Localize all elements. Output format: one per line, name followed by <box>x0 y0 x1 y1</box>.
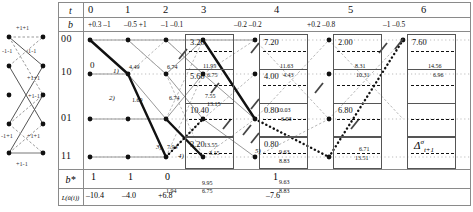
node-metric-22: 8.83 <box>279 188 290 194</box>
b-star-value-0: 1 <box>91 171 96 182</box>
state-edge-label-5: -1+1 <box>1 132 13 139</box>
path-label-4: 5) <box>255 147 261 155</box>
state-label-11: 11 <box>61 150 71 161</box>
b-pair-4: +0.2 –0.8 <box>307 20 335 29</box>
rule-under-trellis <box>58 169 471 170</box>
state-edge-label-7: +1-1 <box>16 160 28 167</box>
b-pair-5: –1 –0.5 <box>383 20 405 29</box>
rule-bottom <box>58 205 471 206</box>
L-value-2: +6.8 <box>158 191 173 200</box>
node-metric-13: 9.95 <box>202 180 213 186</box>
b-pair-2: –1 –0.1 <box>161 20 183 29</box>
path-label-1: 2) <box>109 94 115 102</box>
path-label-2: 3) <box>156 143 162 151</box>
L-value-1: –4.0 <box>122 191 136 200</box>
state-edge-label-4: +1-1 <box>28 92 40 99</box>
t-value-1: 1 <box>125 4 130 15</box>
path-label-3: 4) <box>178 152 184 160</box>
state-edge-label-1: -1-1 <box>2 47 12 54</box>
path-label-layer: 1)2)3)4)5) <box>83 31 471 169</box>
b-star-value-2: 0 <box>165 171 170 182</box>
t-value-4: 4 <box>274 4 279 15</box>
path-label-0: 1) <box>113 67 119 75</box>
trellis-figure-root: +1+1 -1-1 -1-1 +1+1 +1-1 -1+1 +1+1 +1-1 … <box>0 0 473 212</box>
t-value-6: 6 <box>421 4 426 15</box>
row-header-t: t <box>58 4 83 17</box>
state-edge-label-6: +1+1 <box>27 132 40 139</box>
t-value-5: 5 <box>348 4 353 15</box>
b-star-value-3: 1 <box>273 171 278 182</box>
state-transition-diagram: +1+1 -1-1 -1-1 +1+1 +1-1 -1+1 +1+1 +1-1 <box>0 22 58 172</box>
row-header-b-star: b* <box>58 170 83 188</box>
state-label-01: 01 <box>61 112 72 123</box>
L-value-3: –7.6 <box>266 191 280 200</box>
state-label-00: 00 <box>61 33 72 44</box>
row-header-b: b <box>58 18 83 31</box>
trellis-table: t b b* L(û(i)) 0 1 2 3 4 5 6 +0.3 –1 –0.… <box>58 2 471 206</box>
t-value-2: 2 <box>163 4 168 15</box>
state-edge-label-2: -1-1 <box>26 47 36 54</box>
rule-under-bstar <box>58 188 471 189</box>
L-value-0: –10.4 <box>86 191 104 200</box>
b-pair-3: –0.2 –0.2 <box>234 20 262 29</box>
state-edge-label-0: +1+1 <box>16 24 29 31</box>
row-header-L: L(û(i)) <box>58 189 83 205</box>
t-value-3: 3 <box>201 4 206 15</box>
node-metric-14: 6.75 <box>202 188 213 194</box>
node-metric-21: 9.63 <box>279 179 290 185</box>
state-edge-label-3: +1+1 <box>27 74 40 81</box>
t-value-0: 0 <box>88 4 93 15</box>
b-pair-0: +0.3 –1 <box>88 20 111 29</box>
b-star-value-1: 1 <box>128 171 133 182</box>
b-pair-1: –0.5 +1 <box>124 20 147 29</box>
rule-under-t <box>58 17 471 18</box>
rule-top <box>58 2 471 3</box>
state-label-10: 10 <box>61 66 72 77</box>
